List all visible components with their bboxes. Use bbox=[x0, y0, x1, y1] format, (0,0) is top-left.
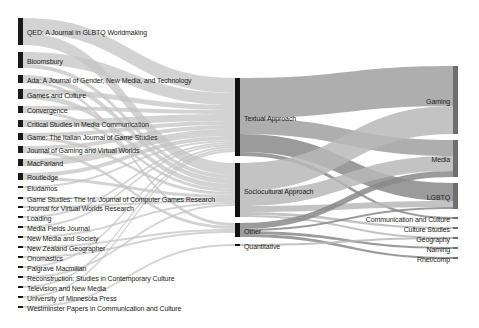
label-lgbtq: LGBTQ bbox=[427, 193, 450, 200]
node-cultstud bbox=[453, 227, 458, 229]
label-routledge: Routledge bbox=[27, 174, 58, 181]
label-palgrave: Palgrave Macmillan bbox=[27, 264, 86, 271]
node-westminster bbox=[18, 306, 23, 308]
label-onomastics: Onomastics bbox=[27, 254, 63, 261]
label-rhetcomp: Rhet/comp bbox=[417, 255, 450, 262]
label-ada: Ada: A Journal of Gender, New Media, and… bbox=[27, 76, 191, 83]
node-nms bbox=[18, 236, 23, 238]
node-lgbtq bbox=[453, 183, 458, 209]
label-mfj: Media Fields Journal bbox=[27, 224, 90, 231]
label-jvwr: Journal for Virtual Worlds Research bbox=[27, 204, 134, 211]
label-nms: New Media and Society bbox=[27, 234, 98, 241]
label-tnm: Television and New Media bbox=[27, 284, 106, 291]
node-rhetcomp bbox=[453, 257, 458, 259]
node-umn bbox=[18, 296, 23, 298]
node-convergence bbox=[18, 106, 23, 113]
node-macfarland bbox=[18, 159, 23, 166]
label-eludamos: Eludamos bbox=[27, 184, 57, 191]
node-game_ital bbox=[18, 133, 23, 140]
node-palgrave bbox=[18, 266, 23, 268]
label-socio: Sociocultural Approach bbox=[244, 187, 313, 194]
label-naming: Naming bbox=[426, 245, 450, 252]
label-game_ital: Game: The Italian Journal of Game Studie… bbox=[27, 134, 157, 141]
label-other: Other bbox=[244, 227, 261, 234]
label-qed: QED: A Journal in GLBTQ Worldmaking bbox=[27, 29, 147, 36]
label-westminster: Westminster Papers in Communication and … bbox=[27, 304, 181, 311]
node-eludamos bbox=[18, 186, 23, 188]
node-ada bbox=[18, 75, 23, 83]
node-gamestudies bbox=[18, 197, 23, 199]
label-gaming: Gaming bbox=[426, 97, 450, 104]
label-reconstruction: Reconstruction: Studies in Contemporary … bbox=[27, 274, 174, 281]
node-commcult bbox=[453, 217, 458, 219]
node-gaming bbox=[453, 66, 458, 134]
label-media: Media bbox=[431, 156, 450, 163]
node-textual bbox=[235, 78, 240, 156]
label-gac: Games and Culture bbox=[27, 91, 86, 98]
node-reconstruction bbox=[18, 276, 23, 278]
label-umn: University of Minnesota Press bbox=[27, 294, 117, 301]
node-routledge bbox=[18, 173, 23, 180]
node-csmc bbox=[18, 120, 23, 127]
node-socio bbox=[235, 163, 240, 217]
label-loading: Loading bbox=[27, 214, 51, 221]
label-gamestudies: Game Studies: The Int. Journal of Comput… bbox=[27, 195, 215, 202]
node-mfj bbox=[18, 226, 23, 228]
label-nzg: New Zealand Geographer bbox=[27, 244, 105, 251]
label-macfarland: MacFarland bbox=[27, 160, 63, 167]
node-nzg bbox=[18, 246, 23, 248]
node-geography bbox=[453, 237, 458, 239]
node-gac bbox=[18, 89, 23, 99]
label-jgvw: Journal of Gaming and Virtual Worlds bbox=[27, 147, 139, 154]
label-bloomsbury: Bloomsbury bbox=[27, 57, 63, 64]
node-tnm bbox=[18, 286, 23, 288]
label-csmc: Critical Studies in Media Communication bbox=[27, 121, 149, 128]
node-jgvw bbox=[18, 146, 23, 153]
node-onomastics bbox=[18, 256, 23, 258]
node-qed bbox=[18, 18, 23, 45]
label-commcult: Communication and Culture bbox=[366, 215, 450, 222]
label-cultstud: Culture Studies bbox=[404, 225, 450, 232]
node-bloomsbury bbox=[18, 52, 23, 68]
node-jvwr bbox=[18, 206, 23, 208]
label-quant: Quantitative bbox=[244, 242, 280, 249]
node-quant bbox=[235, 244, 240, 246]
label-textual: Textual Approach bbox=[244, 114, 296, 121]
node-loading bbox=[18, 216, 23, 218]
node-other bbox=[235, 223, 240, 237]
node-naming bbox=[453, 247, 458, 249]
label-geography: Geography bbox=[416, 235, 450, 242]
label-convergence: Convergence bbox=[27, 107, 68, 114]
node-media bbox=[453, 140, 458, 177]
